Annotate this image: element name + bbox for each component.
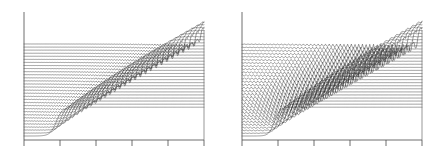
- waterfall-figure: [0, 0, 435, 156]
- waterfall-curve: [24, 92, 204, 122]
- waterfall-curve: [242, 92, 422, 123]
- waterfall-curve: [24, 30, 204, 62]
- waterfall-plot-right: [218, 0, 435, 156]
- waterfall-plot-left: [0, 0, 217, 156]
- waterfall-curve: [242, 64, 422, 100]
- chart-panel-left: [0, 0, 217, 156]
- waterfall-curve: [242, 86, 422, 119]
- axes-group: [24, 12, 204, 146]
- chart-panel-right: [218, 0, 435, 156]
- waterfall-curve: [24, 101, 204, 130]
- waterfall-curve: [242, 89, 422, 121]
- curves-group: [242, 21, 422, 136]
- waterfall-curve: [24, 107, 204, 136]
- waterfall-curve: [24, 37, 204, 69]
- waterfall-curve: [242, 107, 422, 136]
- waterfall-curve: [24, 40, 204, 72]
- waterfall-curve: [24, 95, 204, 125]
- axes-group: [242, 12, 422, 146]
- waterfall-curve: [242, 95, 422, 126]
- waterfall-curve: [24, 89, 204, 119]
- waterfall-curve: [242, 73, 422, 108]
- curves-group: [24, 22, 204, 136]
- waterfall-curve: [242, 82, 422, 115]
